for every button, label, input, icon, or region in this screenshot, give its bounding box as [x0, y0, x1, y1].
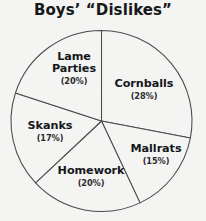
slice-label-lame-parties: Lame Parties (20%): [37, 51, 111, 86]
slice-label-homework: Homework (20%): [52, 165, 130, 188]
slice-name-lame-parties: Lame Parties: [37, 51, 111, 75]
slice-name-lame-parties-line1: Lame: [57, 50, 91, 63]
slice-name-cornballs: Cornballs: [106, 78, 182, 90]
slice-name-skanks: Skanks: [16, 120, 84, 132]
pie-chart-figure: Boys’ “Dislikes” Cornballs (28%) Mallrat…: [0, 0, 206, 221]
slice-percent-cornballs: (28%): [106, 92, 182, 101]
slice-name-homework: Homework: [52, 165, 130, 177]
slice-percent-lame-parties: (20%): [37, 77, 111, 86]
slice-label-mallrats: Mallrats (15%): [122, 143, 190, 166]
slice-percent-homework: (20%): [52, 179, 130, 188]
slice-label-skanks: Skanks (17%): [16, 120, 84, 143]
slice-name-mallrats: Mallrats: [122, 143, 190, 155]
slice-name-lame-parties-line2: Parties: [37, 63, 111, 75]
slice-percent-skanks: (17%): [16, 134, 84, 143]
slice-label-cornballs: Cornballs (28%): [106, 78, 182, 101]
slice-percent-mallrats: (15%): [122, 157, 190, 166]
